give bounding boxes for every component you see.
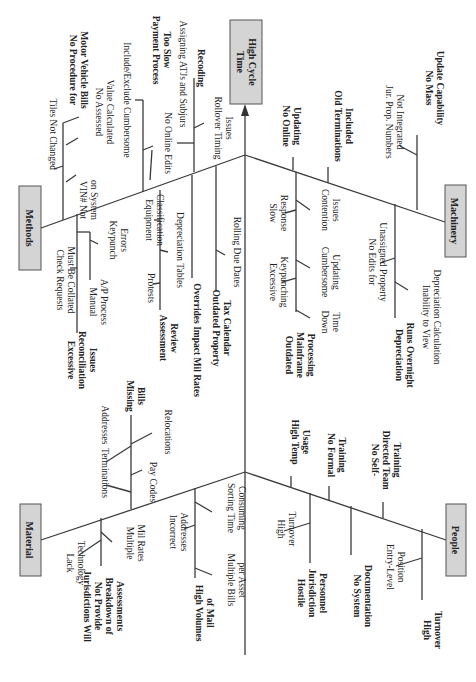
cause-protests: Protests [146,273,156,303]
cause-vin-line2: on System [89,180,99,220]
cause-jurisdictions-line3: Breakdown of [104,577,114,635]
cause-no-online-updating-line2: Updating [292,107,302,145]
cause-high-volumes-line2: of Mail [205,598,215,628]
cause-high-volumes-line1: High Volumes [194,585,204,642]
cause-slow-response-line1: Slow [268,203,278,223]
cause-relocations: Relocations [163,410,173,455]
cause-check-requests-line1: Check Requests [55,250,65,311]
cause-hostile-line1: Hostile [296,579,306,608]
cause-assessment-review-line1: Assessment [158,315,168,362]
cause-incorrect-addresses-line2: Addresses [179,512,189,551]
cause-jur-prop-line2: Not Integrated [395,94,405,149]
cause-entry-level-line1: Entry-Level [385,544,395,590]
cause-excessive-recon-line2: Reconciliation [77,331,87,390]
cause-outdated-calendar-line1: Outdated Property [211,289,221,366]
cause-no-system-doc-line2: Documentation [363,565,373,628]
cause-outdated-calendar-line2: Tax Calendar [222,300,232,356]
cause-jur-prop-line1: Jur. Prop. Numbers [384,85,394,159]
cause-cumbersome-updating-line1: Cumbersome [320,247,330,298]
cause-depreciation-overnight-line1: Depreciation [394,329,404,382]
cause-no-online-edits: No Online Edits [163,112,173,174]
cause-no-assessed-line2: Value Calculated [105,80,115,145]
cause-check-requests-line2: Must Be Collated [66,246,76,313]
cause-jurisdictions-line4: Assessments [115,581,125,631]
machinery-sub-bones [282,135,417,318]
category-label-machinery: Machinery [449,198,460,245]
cause-hostile-line3: Personnel [318,573,328,613]
cause-addresses: Addresses [100,405,110,444]
cause-assessment-review-line2: Review [169,323,179,353]
category-box-machinery: Machinery [445,185,466,257]
cause-no-self-directed-line2: Directed Team [381,430,391,489]
cause-vin-line1: VIN# Not [78,181,88,220]
cause-recoding: Recoding [196,49,206,87]
cause-no-edits-unassigned-line2: Unassigned Property [378,222,388,302]
cause-keypunch-line2: Errors [119,228,129,252]
cause-no-self-directed-line1: No Self- [370,444,380,476]
cause-no-procedure-line2: Motor Vehicle Bills [79,31,89,109]
cause-contention-line2: Issues [331,198,341,222]
cause-pay-codes: Pay Codes [148,462,158,503]
machinery-labels: No Online Updating Old Terminations Incl… [268,51,445,389]
spine-arrowhead-icon [241,104,249,116]
cause-payment-line2: Too Slow [162,32,172,69]
cause-inability-view-line2: Depreciation Calculation [432,269,442,364]
cause-lack-technology-line2: Technology [76,541,86,586]
cause-no-procedure-line1: No Procedure for [68,35,78,106]
cause-excessive-recon-line1: Excessive [66,341,76,380]
cause-multiple-bills-line2: per Asset [237,562,247,597]
cause-old-terminations-line1: Old Terminations [333,90,343,162]
cause-incorrect-addresses-line1: Incorrect [168,515,178,550]
cause-sorting-time-line1: Sorting Time [226,483,236,533]
cause-cumbersome-updating-line2: Updating [331,254,341,290]
category-label-material: Material [24,521,35,558]
cause-no-online-updating-line1: No Online [281,105,291,146]
cause-no-formal-training-line1: No Formal [326,433,336,477]
cause-high-turnover-sub-line2: Turnover [287,511,297,547]
fishbone-diagram: High Cycle Time Methods Machinery Materi… [0,0,476,682]
cause-tiles-not-changed: Tiles Not Changed [48,99,58,171]
cause-down-time-line2: Time [331,312,341,332]
cause-high-turnover-line1: High [422,620,432,641]
category-box-methods: Methods [19,186,41,270]
cause-high-turnover-sub-line1: High [276,520,286,539]
category-box-material: Material [20,504,41,576]
cause-missing-bills-line2: Bills [136,387,146,405]
methods-labels: No Procedure for Motor Vehicle Bills Til… [48,16,242,397]
bone-people [245,472,446,540]
cause-outdated-mainframe-line2: Mainframe [295,332,305,378]
cause-jurisdictions-line2: Not Provide [93,582,103,631]
cause-contention-line1: Contention [320,189,330,231]
cause-missing-bills-line1: Missing [125,380,135,412]
cause-hostile-line2: Jurisdiction [307,569,317,618]
cause-no-formal-training-line2: Training [337,437,347,472]
category-label-people: People [450,526,461,555]
cause-old-terminations-line2: Included [344,108,354,145]
cause-no-system-doc-line1: No System [352,574,362,617]
cause-inability-view-line1: Inability to View [421,285,431,349]
cause-assigning-atjs: Assigning ATJs and Subjurs [178,21,188,128]
cause-equipment-line2: Classification [155,194,165,246]
cause-no-mass-update-line2: Update Capability [435,51,445,126]
cause-high-turnover-line2: Turnover [433,611,443,650]
cause-manual-ap-line1: Manual [88,287,98,316]
cause-outdated-mainframe-line1: Outdated [284,336,294,375]
cause-manual-ap-line2: A/P Process [99,279,109,325]
cause-include-exclude: Include/Exclude Cumbersome [122,42,132,157]
cause-high-temp-line2: Usage [301,430,311,454]
cause-terminations: Terminations [100,448,110,498]
cause-keypunch-line1: Keypunch [108,220,118,259]
cause-depreciation-overnight-line2: Runs Overnight [405,322,415,388]
cause-no-assessed-line1: No Assessed [94,88,104,137]
effect-box: High Cycle Time [230,20,262,104]
material-labels: Missing Bills Terminations Addresses Pay… [65,380,247,642]
category-box-people: People [446,504,466,576]
effect-label-line2: Time [235,51,246,74]
cause-excessive-keypunching-line2: Keypunching [279,256,289,307]
cause-rollover-line1: Rollover Timing [213,96,223,159]
cause-sorting-time-line2: Consuming [237,486,247,530]
cause-no-edits-unassigned-line1: No Edits for [367,239,377,287]
cause-down-time-line1: Down [320,310,330,333]
cause-excessive-recon-line3: Issues [88,348,98,373]
cause-payment-line1: Payment Process [151,16,161,85]
